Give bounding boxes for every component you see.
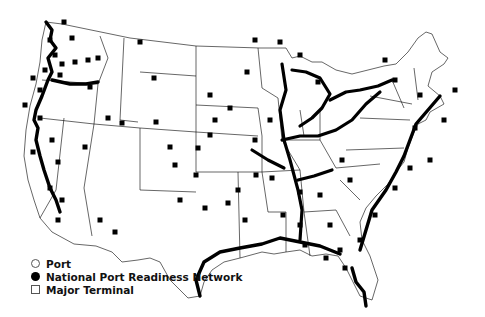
terminal-marker [120, 121, 125, 126]
terminal-marker [418, 93, 423, 98]
terminal-marker [86, 58, 91, 63]
terminal-marker [324, 256, 329, 261]
terminal-marker [316, 80, 321, 85]
terminal-marker [253, 38, 258, 43]
terminal-marker [270, 176, 275, 181]
terminal-marker [196, 146, 201, 151]
terminal-marker [338, 248, 343, 253]
terminal-marker [318, 193, 323, 198]
terminal-marker [408, 166, 413, 171]
terminal-marker [413, 126, 418, 131]
terminal-marker [208, 133, 213, 138]
terminal-marker [113, 230, 118, 235]
terminal-marker [56, 218, 61, 223]
terminal-marker [31, 76, 36, 81]
terminal-marker [48, 186, 53, 191]
terminal-marker [281, 213, 286, 218]
terminal-marker [98, 218, 103, 223]
terminal-marker [348, 178, 353, 183]
terminal-marker [138, 40, 143, 45]
terminal-marker [23, 103, 28, 108]
terminal-marker [208, 93, 213, 98]
terminal-marker [53, 53, 58, 58]
terminal-marker [278, 40, 283, 45]
terminal-marker [393, 186, 398, 191]
terminal-marker [226, 201, 231, 206]
terminal-marker [58, 73, 63, 78]
terminal-marker [383, 58, 388, 63]
legend-item-major-terminal: Major Terminal [31, 283, 242, 296]
terminal-marker [168, 145, 173, 150]
terminal-marker [48, 38, 53, 43]
terminal-marker [213, 118, 218, 123]
terminal-marker [194, 173, 199, 178]
terminal-marker [56, 160, 61, 165]
legend-item-port: Port [31, 257, 242, 270]
legend-item-npr-network: National Port Readiness Network [31, 270, 242, 283]
terminal-marker [62, 20, 67, 25]
terminal-marker [328, 223, 333, 228]
terminal-marker [178, 198, 183, 203]
terminal-marker [303, 243, 308, 248]
terminal-marker [38, 88, 43, 93]
terminal-marker [268, 118, 273, 123]
open-square-icon [31, 285, 40, 294]
terminal-marker [203, 206, 208, 211]
terminal-marker [442, 118, 447, 123]
terminal-marker [31, 150, 36, 155]
terminal-marker [298, 223, 303, 228]
terminal-marker [373, 213, 378, 218]
terminal-marker [88, 85, 93, 90]
terminal-marker [228, 106, 233, 111]
legend: Port National Port Readiness Network Maj… [31, 257, 242, 296]
terminal-marker [154, 120, 159, 125]
terminal-marker [60, 198, 65, 203]
terminal-marker [253, 138, 258, 143]
terminal-marker [96, 56, 101, 61]
terminal-marker [50, 138, 55, 143]
terminal-marker [453, 88, 458, 93]
terminal-marker [173, 163, 178, 168]
open-circle-icon [31, 259, 40, 268]
terminal-marker [152, 76, 157, 81]
terminal-marker [43, 68, 48, 73]
legend-label: National Port Readiness Network [46, 271, 242, 283]
terminal-marker [243, 218, 248, 223]
terminal-marker [60, 62, 65, 67]
terminal-marker [428, 158, 433, 163]
terminal-marker [83, 145, 88, 150]
legend-label: Port [46, 258, 71, 270]
filled-circle-icon [31, 272, 40, 281]
terminal-marker [236, 188, 241, 193]
terminal-marker [298, 53, 303, 58]
terminal-marker [343, 266, 348, 271]
terminal-marker [70, 36, 75, 41]
terminal-marker [73, 60, 78, 65]
terminal-marker [254, 173, 259, 178]
terminal-marker [358, 238, 363, 243]
terminal-marker [340, 158, 345, 163]
terminal-marker [38, 116, 43, 121]
terminal-marker [245, 70, 250, 75]
terminal-marker [393, 78, 398, 83]
terminal-marker [106, 116, 111, 121]
terminal-marker [298, 190, 303, 195]
legend-label: Major Terminal [46, 284, 134, 296]
